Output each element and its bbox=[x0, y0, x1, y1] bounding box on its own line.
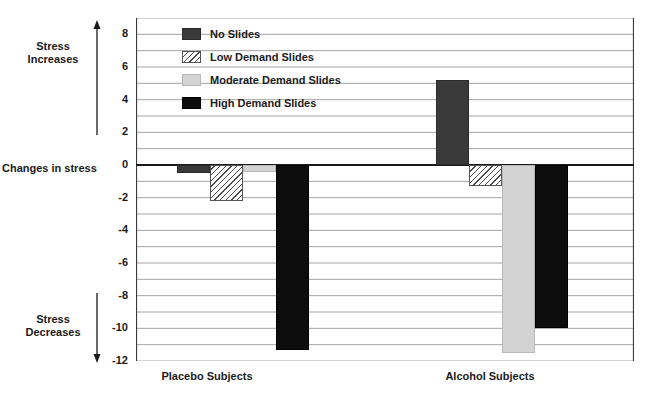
legend-item-high-demand-slides: High Demand Slides bbox=[182, 93, 341, 113]
arrow-down-icon bbox=[92, 293, 102, 363]
stress-decreases-label: Stress Decreases bbox=[18, 313, 88, 339]
y-tick-neg12: -12 bbox=[102, 354, 128, 366]
y-tick-neg4: -4 bbox=[102, 223, 128, 235]
y-tick-8: 8 bbox=[102, 27, 128, 39]
y-tick-2: 2 bbox=[102, 125, 128, 137]
legend: No SlidesLow Demand SlidesModerate Deman… bbox=[182, 24, 341, 116]
bar-placebo-subjects-high-demand-slides bbox=[276, 165, 309, 350]
legend-swatch-icon-no-slides bbox=[182, 28, 201, 40]
y-tick-0: 0 bbox=[102, 158, 128, 170]
y-tick-neg8: -8 bbox=[102, 289, 128, 301]
bar-alcohol-subjects-low-demand-slides bbox=[469, 165, 502, 186]
y-tick-6: 6 bbox=[102, 60, 128, 72]
legend-item-moderate-demand-slides: Moderate Demand Slides bbox=[182, 70, 341, 90]
arrow-up-icon bbox=[92, 20, 102, 135]
legend-item-low-demand-slides: Low Demand Slides bbox=[182, 47, 341, 67]
legend-label: High Demand Slides bbox=[210, 97, 316, 109]
y-tick-neg10: -10 bbox=[102, 321, 128, 333]
category-label-placebo: Placebo Subjects bbox=[137, 370, 277, 382]
legend-swatch-icon-high-demand-slides bbox=[182, 97, 201, 109]
stress-increases-label: Stress Increases bbox=[18, 40, 88, 66]
y-tick-neg2: -2 bbox=[102, 191, 128, 203]
bar-placebo-subjects-low-demand-slides bbox=[210, 165, 243, 201]
legend-swatch-icon-low-demand-slides bbox=[182, 51, 201, 63]
stress-change-bar-chart: Stress Increases Changes in stress Stres… bbox=[0, 0, 654, 395]
legend-item-no-slides: No Slides bbox=[182, 24, 341, 44]
legend-label: Moderate Demand Slides bbox=[210, 74, 341, 86]
legend-label: No Slides bbox=[210, 28, 260, 40]
y-tick-4: 4 bbox=[102, 93, 128, 105]
bar-placebo-subjects-moderate-demand-slides bbox=[243, 165, 276, 172]
legend-swatch-icon-moderate-demand-slides bbox=[182, 74, 201, 86]
category-label-alcohol: Alcohol Subjects bbox=[420, 370, 560, 382]
bar-alcohol-subjects-moderate-demand-slides bbox=[502, 165, 535, 353]
y-tick-neg6: -6 bbox=[102, 256, 128, 268]
zero-axis-label: Changes in stress bbox=[2, 162, 107, 175]
bar-alcohol-subjects-no-slides bbox=[436, 80, 469, 165]
bar-placebo-subjects-no-slides bbox=[177, 165, 210, 173]
legend-label: Low Demand Slides bbox=[210, 51, 314, 63]
bar-alcohol-subjects-high-demand-slides bbox=[535, 165, 568, 328]
